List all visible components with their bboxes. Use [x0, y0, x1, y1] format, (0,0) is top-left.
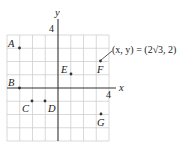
annotation-leader-line — [101, 51, 112, 60]
annotation: (x, y) = (2√3, 2) — [101, 44, 176, 60]
x-tick-label: 4 — [106, 89, 111, 100]
point-c-label: C — [22, 103, 30, 114]
annotation-text: (x, y) = (2√3, 2) — [112, 44, 176, 56]
point-d-dot — [44, 100, 47, 103]
point-a-label: A — [7, 38, 15, 49]
point-f: F — [96, 60, 104, 75]
point-g-dot — [100, 113, 103, 116]
y-tick-label: 4 — [49, 23, 54, 34]
point-e-dot — [70, 73, 73, 76]
point-c-dot — [31, 100, 34, 103]
point-b-label: B — [8, 77, 15, 88]
point-a: A — [7, 38, 21, 49]
point-e-label: E — [60, 64, 68, 75]
point-d-label: D — [47, 103, 56, 114]
y-axis-label: y — [54, 7, 60, 18]
point-c: C — [22, 100, 33, 114]
x-axis-label: x — [118, 82, 124, 93]
point-a-dot — [18, 47, 21, 50]
point-g-label: G — [97, 117, 105, 128]
point-f-label: F — [96, 64, 104, 75]
point-g: G — [97, 113, 105, 128]
coordinate-plane: x y 4 4 A B C D E F G — [0, 0, 180, 147]
point-b-dot — [18, 87, 21, 90]
